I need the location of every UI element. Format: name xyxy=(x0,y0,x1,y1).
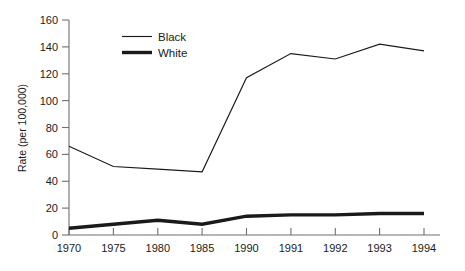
line-chart: 160 140 120 100 80 60 40 20 0 1970 1975 xyxy=(0,0,465,271)
chart-canvas: 160 140 120 100 80 60 40 20 0 1970 1975 xyxy=(0,0,465,271)
x-tick-label: 1970 xyxy=(57,242,81,254)
x-tick-label: 1994 xyxy=(412,242,436,254)
chart-background xyxy=(0,0,465,271)
x-tick-label: 1993 xyxy=(367,242,391,254)
x-tick-label: 1990 xyxy=(234,242,258,254)
x-tick-label: 1980 xyxy=(146,242,170,254)
legend-label-black: Black xyxy=(158,31,186,43)
x-tick-label: 1985 xyxy=(190,242,214,254)
y-tick-label: 100 xyxy=(40,95,58,107)
y-tick-label: 140 xyxy=(40,41,58,53)
y-tick-label: 160 xyxy=(40,14,58,26)
legend-label-white: White xyxy=(158,47,187,59)
x-tick-label: 1975 xyxy=(101,242,125,254)
x-tick-label: 1991 xyxy=(279,242,303,254)
y-tick-label: 80 xyxy=(46,122,58,134)
y-axis-title: Rate (per 100,000) xyxy=(16,84,28,172)
x-axis-tick-labels: 1970 1975 1980 1985 1990 1991 1992 1993 … xyxy=(57,242,436,254)
y-tick-label: 60 xyxy=(46,148,58,160)
y-tick-label: 20 xyxy=(46,202,58,214)
x-tick-label: 1992 xyxy=(323,242,347,254)
y-tick-label: 0 xyxy=(52,229,58,241)
y-tick-label: 40 xyxy=(46,175,58,187)
y-tick-label: 120 xyxy=(40,68,58,80)
